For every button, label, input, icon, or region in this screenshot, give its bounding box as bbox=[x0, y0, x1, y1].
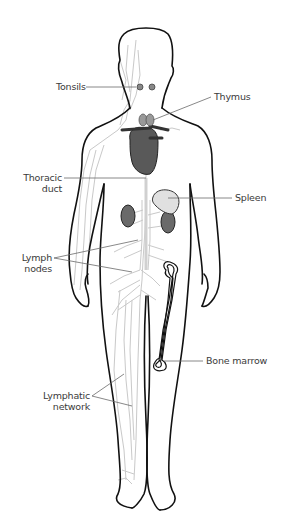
label-thoracic-duct: Thoracic duct bbox=[18, 172, 62, 194]
label-thoracic-duct-line1: Thoracic bbox=[18, 172, 62, 183]
label-lymphatic-network-line1: Lymphatic bbox=[34, 390, 90, 401]
label-lymph-nodes: Lymph nodes bbox=[14, 252, 52, 274]
femur-bone bbox=[154, 262, 178, 371]
spleen-organ bbox=[152, 190, 179, 214]
label-thymus: Thymus bbox=[214, 91, 250, 102]
label-lymph-nodes-line2: nodes bbox=[14, 263, 52, 274]
lymphatic-system-diagram: Tonsils Thymus Thoracic duct Spleen Lymp… bbox=[0, 0, 284, 521]
label-thoracic-duct-line2: duct bbox=[18, 183, 62, 194]
lymphatic-vessels bbox=[74, 40, 180, 484]
heart-organ bbox=[122, 126, 168, 174]
label-lymphatic-network-line2: network bbox=[34, 401, 90, 412]
label-lymphatic-network: Lymphatic network bbox=[34, 390, 90, 412]
label-tonsils: Tonsils bbox=[56, 81, 86, 92]
label-spleen: Spleen bbox=[235, 192, 266, 203]
thymus-organ bbox=[139, 114, 154, 126]
tonsils-organ bbox=[137, 84, 155, 90]
label-bone-marrow: Bone marrow bbox=[206, 355, 267, 366]
label-lymph-nodes-line1: Lymph bbox=[14, 252, 52, 263]
